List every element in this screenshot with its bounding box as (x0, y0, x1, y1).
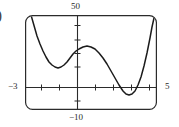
axis-label-ymin: −10 (69, 113, 83, 122)
graph-svg (25, 15, 157, 110)
part-label: ) (0, 8, 2, 23)
axis-label-ymax: 50 (71, 2, 80, 11)
function-curve (31, 15, 155, 95)
viewport-frame (26, 16, 157, 110)
plot-area (25, 15, 157, 110)
axis-label-xmax: 5 (165, 82, 170, 91)
axis-label-xmin: −3 (8, 82, 18, 91)
figure-container: ) 50 −10 −3 5 (0, 0, 179, 127)
